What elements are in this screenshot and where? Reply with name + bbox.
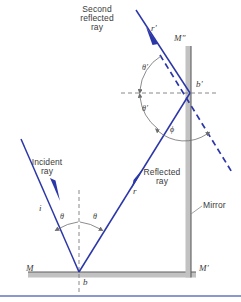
second-reflected-ray-line <box>136 10 190 93</box>
ray-symbol-r: r <box>133 186 137 196</box>
ray-symbol-r-prime: r′ <box>151 23 157 33</box>
optics-reflection-figure: Second reflected ray Incident ray Reflec… <box>0 0 241 302</box>
theta-prime-lower-arc <box>140 97 158 129</box>
vertical-mirror-Mdoubleprime-Mprime <box>186 46 192 278</box>
second-reflected-ray-label: Second reflected ray <box>62 5 132 33</box>
incident-ray-arrowhead <box>50 178 60 201</box>
mirror-callout-leader <box>191 206 202 214</box>
ray-symbol-i: i <box>39 203 42 213</box>
angle-label-theta-right: θ <box>93 212 97 221</box>
angle-label-phi: ϕ <box>170 125 174 134</box>
reflected-ray-label: Reflected ray <box>134 168 190 186</box>
incident-ray-label: Incident ray <box>18 158 76 176</box>
mirror-label-M-double-prime: M″ <box>174 33 186 43</box>
mirror-label-M-prime: M′ <box>199 263 209 273</box>
angle-label-theta-prime-upper: θ′ <box>142 63 148 72</box>
theta-right-arc <box>80 222 100 229</box>
point-label-b-prime: b′ <box>196 79 203 89</box>
theta-prime-upper-arc <box>140 56 161 90</box>
dashed-extension-ray <box>160 55 233 174</box>
angle-label-theta-prime-lower: θ′ <box>142 104 148 113</box>
point-label-b: b <box>83 277 88 287</box>
mirror-label-M: M <box>26 263 34 273</box>
horizontal-mirror-M-Mprime <box>28 272 196 278</box>
mirror-callout-label: Mirror <box>203 201 226 210</box>
theta-left-arc <box>58 222 78 229</box>
angle-label-theta-left: θ <box>60 212 64 221</box>
figure-canvas <box>0 0 241 302</box>
